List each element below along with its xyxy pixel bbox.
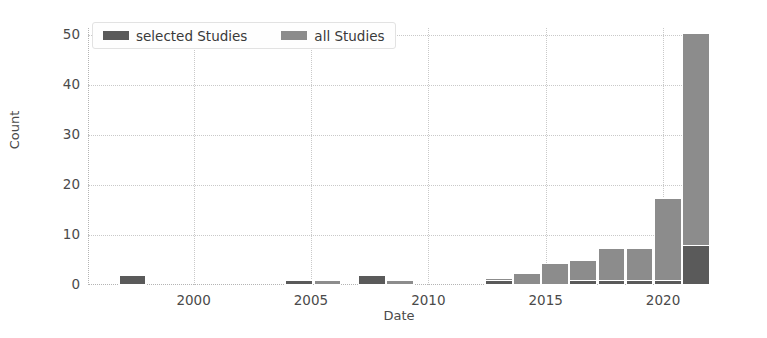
legend-entry-all-studies[interactable]: all Studies xyxy=(281,28,384,44)
y-tick-label-10: 10 xyxy=(10,228,80,242)
bar-selected-studies xyxy=(285,280,313,285)
chart-figure: 01020304050 20002005201020152020 Count D… xyxy=(0,0,767,338)
y-tick-label-20: 20 xyxy=(10,178,80,192)
legend-label: selected Studies xyxy=(136,28,247,44)
bar-all-studies xyxy=(541,263,569,285)
bar-all-studies xyxy=(314,280,342,285)
chart-legend[interactable]: selected Studiesall Studies xyxy=(92,22,396,49)
gridline-y-20 xyxy=(88,185,710,186)
x-tick-label-2005: 2005 xyxy=(276,294,346,308)
x-tick-label-2010: 2010 xyxy=(393,294,463,308)
bar-selected-studies xyxy=(485,280,513,285)
gridline-y-40 xyxy=(88,85,710,86)
legend-swatch-selected-studies xyxy=(103,31,129,40)
bar-selected-studies xyxy=(569,280,597,285)
gridline-y-30 xyxy=(88,135,710,136)
y-tick-label-50: 50 xyxy=(10,28,80,42)
gridline-y-10 xyxy=(88,235,710,236)
bar-selected-studies xyxy=(654,280,682,285)
gridline-x-2010 xyxy=(428,28,429,285)
x-tick-label-2000: 2000 xyxy=(159,294,229,308)
plot-area xyxy=(88,28,710,285)
bar-selected-studies xyxy=(119,275,147,285)
bar-selected-studies xyxy=(682,245,710,285)
legend-swatch-all-studies xyxy=(281,31,307,40)
y-axis-title: Count xyxy=(7,111,22,150)
x-tick-label-2015: 2015 xyxy=(511,294,581,308)
bar-selected-studies xyxy=(598,280,626,285)
gridline-x-2000 xyxy=(194,28,195,285)
gridline-x-2015 xyxy=(546,28,547,285)
bar-selected-studies xyxy=(626,280,654,285)
x-axis-title: Date xyxy=(383,308,414,323)
bar-selected-studies xyxy=(358,275,386,285)
x-tick-label-2020: 2020 xyxy=(628,294,698,308)
legend-label: all Studies xyxy=(314,28,384,44)
gridline-x-2005 xyxy=(311,28,312,285)
bar-all-studies xyxy=(386,280,414,285)
bar-all-studies xyxy=(513,273,541,285)
legend-entry-selected-studies[interactable]: selected Studies xyxy=(103,28,247,44)
bar-all-studies xyxy=(654,198,682,285)
y-tick-label-40: 40 xyxy=(10,78,80,92)
y-tick-label-0: 0 xyxy=(10,278,80,292)
y-axis-line xyxy=(88,28,89,285)
